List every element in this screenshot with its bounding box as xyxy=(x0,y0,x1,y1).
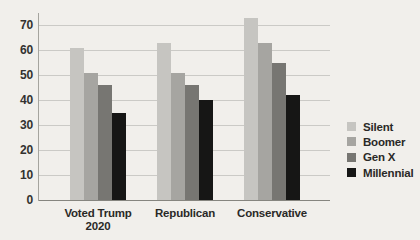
y-tick-label-30: 30 xyxy=(0,118,33,132)
y-tick-label-40: 40 xyxy=(0,93,33,107)
legend-swatch-boomer xyxy=(347,137,356,146)
bar-gen-x-conservative xyxy=(272,63,286,201)
bar-silent-republican xyxy=(157,43,171,201)
bar-boomer-republican xyxy=(171,73,185,201)
legend-row-boomer: Boomer xyxy=(347,134,413,149)
legend-label-gen-x: Gen X xyxy=(363,151,395,163)
legend-label-silent: Silent xyxy=(363,121,393,133)
bar-silent-voted-trump-2020 xyxy=(70,48,84,201)
y-tick-label-70: 70 xyxy=(0,18,33,32)
bar-millennial-conservative xyxy=(286,95,300,200)
y-tick-label-50: 50 xyxy=(0,68,33,82)
legend-label-millennial: Millennial xyxy=(363,167,413,179)
bar-millennial-republican xyxy=(199,100,213,200)
bar-silent-conservative xyxy=(244,18,258,201)
legend-label-boomer: Boomer xyxy=(363,136,405,148)
legend-swatch-millennial xyxy=(347,168,356,177)
bar-gen-x-republican xyxy=(185,85,199,200)
y-tick-label-0: 0 xyxy=(0,193,33,207)
x-category-label-republican: Republican xyxy=(140,207,230,220)
x-category-label-conservative: Conservative xyxy=(227,207,317,220)
legend-row-gen-x: Gen X xyxy=(347,150,413,165)
gridline-70 xyxy=(38,25,330,26)
legend-swatch-gen-x xyxy=(347,153,356,162)
bar-chart: 010203040506070Voted Trump 2020Republica… xyxy=(0,0,420,240)
bar-boomer-voted-trump-2020 xyxy=(84,73,98,201)
legend-row-silent: Silent xyxy=(347,119,413,134)
y-tick-label-20: 20 xyxy=(0,143,33,157)
y-tick-label-10: 10 xyxy=(0,168,33,182)
gridline-0 xyxy=(38,200,330,201)
bar-gen-x-voted-trump-2020 xyxy=(98,85,112,200)
y-axis-line xyxy=(38,13,39,201)
x-category-label-voted-trump-2020: Voted Trump 2020 xyxy=(53,207,143,232)
bar-millennial-voted-trump-2020 xyxy=(112,113,126,201)
legend-swatch-silent xyxy=(347,122,356,131)
bar-boomer-conservative xyxy=(258,43,272,201)
legend-row-millennial: Millennial xyxy=(347,165,413,180)
y-tick-label-60: 60 xyxy=(0,43,33,57)
legend: SilentBoomerGen XMillennial xyxy=(347,119,413,180)
